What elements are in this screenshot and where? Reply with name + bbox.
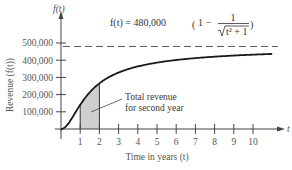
x-tick-label: 2 [97, 137, 102, 147]
y-tick-label: 100,000 [22, 107, 53, 117]
formula-lhs: f(t) = 480,000 [110, 17, 166, 29]
x-tick-label: 7 [193, 137, 198, 147]
y-tick-label: 200,000 [22, 90, 53, 100]
formula-one: 1 [198, 17, 203, 28]
x-tick-label: 4 [135, 137, 140, 147]
annotation-line1: Total revenue [125, 92, 177, 102]
y-axis-symbol: f(t) [53, 4, 65, 15]
y-axis-ticks: 100,000200,000300,000400,000500,000 [22, 38, 66, 117]
y-tick-label: 400,000 [22, 56, 53, 66]
x-tick-label: 3 [116, 137, 121, 147]
x-axis-ticks: 12345678910 [78, 124, 258, 147]
formula-denominator: t² + 1 [226, 26, 247, 37]
x-tick-label: 8 [212, 137, 217, 147]
formula-numerator: 1 [231, 12, 236, 23]
x-tick-label: 5 [155, 137, 160, 147]
formula-close-paren: ) [250, 19, 253, 31]
x-tick-label: 9 [231, 137, 236, 147]
shaded-area-second-year [80, 83, 99, 129]
x-tick-label: 1 [78, 137, 83, 147]
x-axis-title: Time in years (t) [125, 152, 188, 163]
y-axis-title: Revenue (f(t)) [5, 58, 16, 112]
x-tick-label: 6 [174, 137, 179, 147]
formula-minus: − [206, 17, 212, 28]
formula: f(t) = 480,000 ( 1 − 1 t² + 1 ) [110, 12, 253, 37]
x-axis-symbol: t [287, 124, 290, 134]
y-tick-label: 300,000 [22, 73, 53, 83]
x-tick-label: 10 [248, 137, 258, 147]
y-tick-label: 500,000 [22, 38, 53, 48]
x-axis-arrow-icon [277, 127, 285, 132]
formula-open-paren: ( [192, 19, 196, 31]
annotation-line2: for second year [125, 103, 184, 113]
revenue-chart: 100,000200,000300,000400,000500,000 1234… [0, 0, 292, 170]
